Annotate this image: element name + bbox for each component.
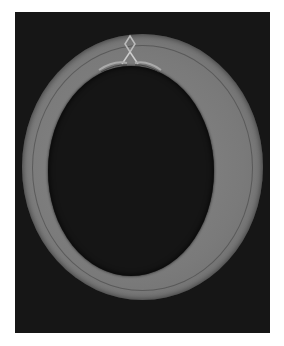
photograph <box>15 12 270 333</box>
knot-icon <box>89 30 179 80</box>
ring-inner-opening <box>48 66 214 276</box>
